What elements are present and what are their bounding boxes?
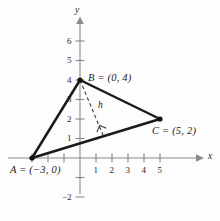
- altitude-label-h: h: [98, 101, 103, 111]
- point-label-a: A = (−3, 0): [10, 165, 61, 176]
- triangle-group: [32, 80, 160, 158]
- geometry-figure: y x 1 2 3 4 5 6 5 4 3 2 1 −2 B = (0, 4) …: [0, 0, 220, 221]
- right-angle-marker-icon: [97, 125, 106, 132]
- triangle-side-bc: [80, 80, 160, 119]
- y-tick-label-6: 6: [67, 37, 72, 46]
- x-tick-label-1: 1: [94, 166, 99, 175]
- y-axis-label: y: [75, 6, 79, 16]
- y-tick-label-3: 3: [67, 95, 72, 104]
- x-axis-arrow-icon: [196, 154, 204, 162]
- vertex-dot-a: [29, 155, 34, 160]
- y-tick-label-5: 5: [67, 56, 72, 65]
- vertex-dot-c: [157, 116, 162, 121]
- y-tick-label-neg2: −2: [62, 193, 72, 202]
- x-tick-label-4: 4: [142, 166, 147, 175]
- point-label-c: C = (5, 2): [152, 126, 196, 137]
- x-axis-label: x: [208, 152, 212, 162]
- y-axis-arrow-icon: [76, 17, 84, 25]
- x-tick-label-3: 3: [126, 166, 131, 175]
- figure-canvas: [0, 0, 220, 221]
- y-tick-label-2: 2: [67, 115, 72, 124]
- x-tick-label-2: 2: [110, 166, 115, 175]
- y-tick-label-1: 1: [67, 134, 72, 143]
- point-label-b: B = (0, 4): [88, 73, 132, 84]
- vertex-dots-group: [29, 77, 162, 160]
- x-tick-label-5: 5: [158, 166, 163, 175]
- vertex-dot-b: [77, 77, 82, 82]
- y-tick-label-4: 4: [67, 76, 72, 85]
